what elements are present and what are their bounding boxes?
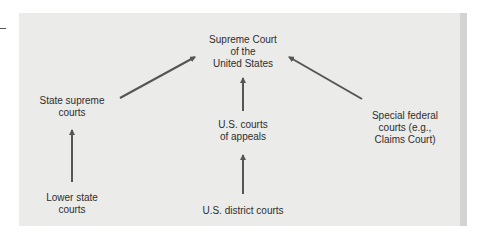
node-supreme-court: Supreme Court of the United States	[193, 34, 293, 70]
node-us-courts-of-appeals: U.S. courts of appeals	[193, 119, 293, 143]
node-state-supreme-courts: State supreme courts	[22, 95, 122, 119]
node-special-federal-courts: Special federal courts (e.g., Claims Cou…	[355, 110, 455, 146]
arrow-state-supreme-to-supreme-court	[120, 57, 195, 98]
node-us-district-courts: U.S. district courts	[183, 205, 303, 217]
arrow-special-federal-to-supreme-court	[289, 57, 362, 99]
node-lower-state-courts: Lower state courts	[22, 192, 122, 216]
